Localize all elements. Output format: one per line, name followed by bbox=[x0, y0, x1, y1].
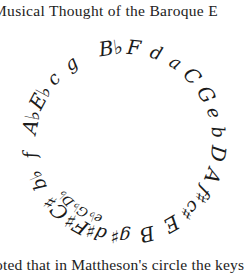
key-label: e bbox=[203, 104, 226, 121]
key-label: G bbox=[192, 82, 221, 108]
body-text-fragment: oted that in Mattheson's circle the keys… bbox=[0, 256, 244, 274]
key-label: a bbox=[165, 51, 185, 74]
key-label: B♭ bbox=[96, 34, 124, 61]
key-label: F bbox=[125, 35, 143, 61]
key-label: b♭ bbox=[24, 167, 51, 194]
key-label: C bbox=[178, 62, 206, 90]
key-label: A bbox=[199, 163, 227, 187]
key-label: g bbox=[60, 51, 81, 75]
mattheson-circle-figure: B♭FdaCGebDAf♯c♯EBg♯d♯F♯C♯e♭G♭D♭b♭fA♭E♭cg bbox=[0, 0, 244, 278]
key-label: D bbox=[205, 143, 231, 163]
circle-key-labels: B♭FdaCGebDAf♯c♯EBg♯d♯F♯C♯e♭G♭D♭b♭fA♭E♭cg bbox=[16, 34, 231, 247]
key-label: d bbox=[147, 41, 165, 65]
key-label: g♯ bbox=[110, 226, 131, 248]
key-label: b bbox=[207, 125, 229, 139]
key-label: B bbox=[137, 221, 158, 248]
key-label: f bbox=[19, 147, 41, 162]
key-label: c bbox=[42, 68, 64, 90]
